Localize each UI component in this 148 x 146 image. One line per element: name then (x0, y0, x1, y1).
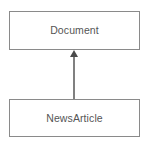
class-box-newsarticle[interactable]: NewsArticle (9, 99, 140, 137)
generalization-arrowhead-icon (70, 50, 78, 57)
uml-class-diagram-canvas: Document NewsArticle (0, 0, 148, 146)
class-name-document: Document (50, 25, 99, 36)
class-box-document[interactable]: Document (9, 11, 140, 50)
class-name-newsarticle: NewsArticle (46, 113, 103, 124)
